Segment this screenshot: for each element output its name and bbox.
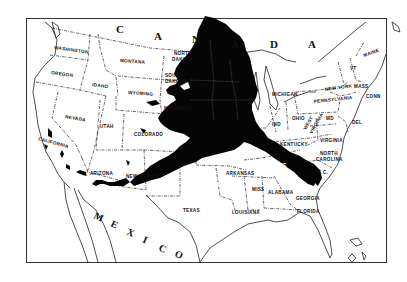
label-montana: MONTANA	[120, 58, 146, 65]
label-south-dakota-1: SOUTH	[165, 73, 183, 78]
label-wyoming: WYOMING	[128, 90, 153, 97]
label-south-carolina: S.C.	[318, 170, 328, 175]
label-alabama: ALABAMA	[268, 190, 294, 195]
mexico-letter-e: E	[109, 218, 120, 231]
canada-letter-a3: A	[308, 38, 316, 50]
label-virginia: VIRGINIA	[320, 138, 343, 143]
label-maryland: MD	[326, 116, 334, 121]
label-kentucky: KENTUCKY	[280, 142, 308, 147]
label-michigan: MICHIGAN	[272, 92, 298, 97]
label-north-dakota-1: NORTH	[174, 51, 192, 56]
canada-letter-a2: A	[231, 38, 239, 50]
label-louisiana: LOUISIANA	[232, 210, 260, 215]
label-new-york: NEW YORK	[324, 83, 352, 92]
canada-letter-n: N	[192, 33, 200, 45]
label-delaware: DEL	[352, 120, 362, 125]
label-colorado: COLORADO	[134, 132, 163, 137]
label-arizona: ARIZONA	[90, 171, 113, 176]
label-connecticut: CONN	[366, 94, 381, 99]
label-north-carolina-1: NORTH	[320, 151, 338, 156]
label-maine: MAINE	[363, 48, 380, 58]
label-oregon: OREGON	[51, 70, 74, 78]
label-massachusetts: MASS	[354, 84, 368, 89]
label-florida: FLORIDA	[297, 209, 320, 214]
label-pennsylvania: PENNSYLVANIA	[314, 95, 354, 104]
mexico-letter-c: C	[157, 242, 168, 255]
label-indiana: IND	[272, 122, 281, 127]
label-washington: WASHINGTON	[54, 45, 89, 55]
mexico-letter-m: M	[92, 210, 106, 224]
label-south-dakota-2: DAKOTA	[165, 79, 186, 84]
map-figure: C A N A D A M E X I C O WASHINGTON OREGO…	[0, 0, 407, 282]
label-tennessee: TENNESSEE	[256, 163, 287, 168]
canada-letter-a1: A	[154, 30, 162, 42]
label-vermont: VT	[350, 66, 356, 71]
label-texas: TEXAS	[183, 208, 200, 213]
label-nevada: NEVADA	[65, 114, 87, 123]
alaska-overlay	[44, 16, 322, 186]
label-north-dakota-2: DAKOTA	[172, 57, 193, 62]
label-georgia: GEORGIA	[296, 196, 320, 201]
label-new-mexico: NEW MEXICO	[126, 174, 159, 179]
canada-letter-d: D	[270, 38, 278, 50]
label-arkansas: ARKANSAS	[226, 171, 254, 176]
label-utah: UTAH	[100, 124, 114, 129]
mexico-letter-x: X	[125, 226, 137, 239]
label-missouri: MISSOURI	[230, 153, 255, 158]
mexico-letter-i: I	[141, 234, 149, 246]
us-map-svg: C A N A D A M E X I C O WASHINGTON OREGO…	[0, 0, 407, 282]
label-mississippi: MISS	[252, 187, 264, 192]
label-idaho: IDAHO	[92, 82, 109, 89]
label-north-carolina-2: CAROLINA	[316, 157, 343, 162]
mexico-letter-o: O	[173, 248, 185, 261]
canada-letter-c: C	[116, 23, 124, 35]
label-nebraska: NEBRASKA	[164, 106, 193, 111]
label-ohio: OHIO	[292, 116, 305, 121]
label-oklahoma: OKLAHOMA	[198, 182, 228, 187]
